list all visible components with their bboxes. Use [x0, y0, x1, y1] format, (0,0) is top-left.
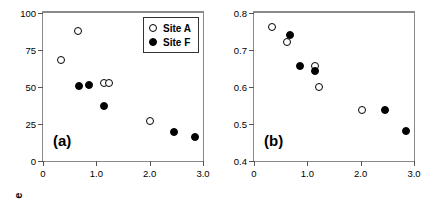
panel-b: Female survival (b) 0.40.50.60.70.801.02… [211, 0, 422, 199]
data-point-site-f [286, 31, 294, 39]
data-point-site-a [315, 83, 323, 91]
panel-a-y-axis-title: Eggs laid per female [11, 166, 25, 199]
data-point-site-f [85, 81, 93, 89]
panel-b-label: (b) [264, 132, 283, 149]
data-point-site-f [296, 62, 304, 70]
panel-b-x-tick [414, 161, 415, 166]
legend: Site A Site F [143, 17, 199, 53]
data-point-site-a [74, 27, 82, 35]
data-point-site-f [75, 82, 83, 90]
panel-b-y-axis-title: Female survival [222, 166, 236, 199]
data-point-site-a [57, 56, 65, 64]
scatter-figure: Eggs laid per female (a) Site A Site F 0… [0, 0, 422, 199]
panel-a-label: (a) [53, 132, 71, 149]
panel-b-y-tick-label: 0.8 [234, 8, 247, 19]
panel-a-y-tick-label: 25 [25, 119, 36, 130]
panel-a-y-tick [38, 124, 43, 125]
panel-b-y-tick-label: 0.4 [234, 156, 247, 167]
data-point-site-f [402, 127, 410, 135]
panel-b-y-tick-label: 0.6 [234, 82, 247, 93]
panel-a-y-tick [38, 50, 43, 51]
data-point-site-f [100, 102, 108, 110]
panel-b-plot-area: (b) 0.40.50.60.70.801.02.03.0 [253, 11, 415, 162]
panel-a-x-tick [96, 161, 97, 166]
panel-a-x-tick-label: 3.0 [196, 168, 209, 179]
panel-b-x-tick-label: 1.0 [301, 168, 314, 179]
legend-entry-site-f: Site F [149, 35, 191, 49]
legend-label-site-f: Site F [163, 37, 190, 48]
panel-b-x-tick-label: 3.0 [407, 168, 420, 179]
legend-label-site-a: Site A [163, 23, 191, 34]
panel-a-plot-area: (a) Site A Site F 025507510001.02.03.0 [42, 11, 204, 162]
filled-circle-icon [149, 38, 157, 46]
panel-b-x-tick-label: 2.0 [354, 168, 367, 179]
panel-b-x-tick-label: 0 [251, 168, 256, 179]
panel-b-y-tick [249, 124, 254, 125]
panel-a-y-tick-label: 0 [31, 156, 36, 167]
data-point-site-f [311, 67, 319, 75]
panel-b-y-tick [249, 50, 254, 51]
panel-a-x-tick [43, 161, 44, 166]
data-point-site-f [191, 133, 199, 141]
panel-b-y-tick [249, 13, 254, 14]
data-point-site-a [268, 23, 276, 31]
data-point-site-a [146, 117, 154, 125]
panel-a-x-tick-label: 2.0 [143, 168, 156, 179]
panel-b-x-tick [361, 161, 362, 166]
data-point-site-f [381, 106, 389, 114]
panel-a-y-tick-label: 75 [25, 45, 36, 56]
panel-a-y-tick-label: 50 [25, 82, 36, 93]
panel-b-y-tick-label: 0.7 [234, 45, 247, 56]
panel-a-y-tick-label: 100 [20, 8, 36, 19]
panel-a-x-tick [203, 161, 204, 166]
panel-a-x-tick-label: 1.0 [90, 168, 103, 179]
panel-b-y-tick-label: 0.5 [234, 119, 247, 130]
panel-b-y-tick [249, 87, 254, 88]
panel-b-x-tick [254, 161, 255, 166]
legend-entry-site-a: Site A [149, 21, 191, 35]
data-point-site-a [358, 106, 366, 114]
data-point-site-f [170, 128, 178, 136]
panel-a: Eggs laid per female (a) Site A Site F 0… [0, 0, 211, 199]
panel-b-x-tick [307, 161, 308, 166]
panel-a-y-tick [38, 13, 43, 14]
panel-a-x-tick [150, 161, 151, 166]
panel-a-y-tick [38, 87, 43, 88]
open-circle-icon [149, 24, 157, 32]
panel-a-x-tick-label: 0 [40, 168, 45, 179]
data-point-site-a [105, 79, 113, 87]
